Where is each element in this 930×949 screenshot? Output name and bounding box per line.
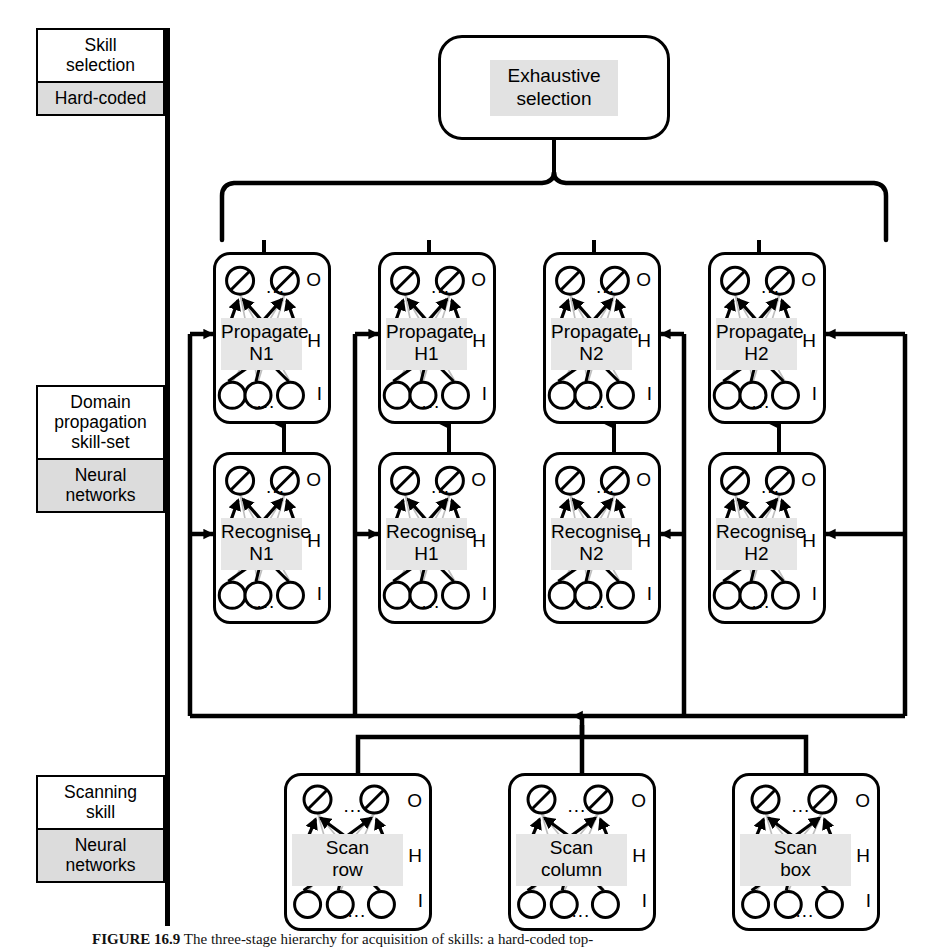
output-ellipsis: ...	[792, 795, 811, 817]
input-ellipsis: ...	[586, 391, 605, 413]
recognise-box-4[interactable]: ......OHIRecogniseH2	[708, 452, 826, 624]
output-ellipsis: ...	[431, 276, 450, 298]
output-ellipsis: ...	[568, 795, 587, 817]
neural-network-glyph: ......OHIScanrow	[287, 776, 429, 928]
layer-letter-hidden: H	[637, 331, 651, 350]
recognise-box-2[interactable]: ......OHIRecogniseH1	[378, 452, 496, 624]
input-ellipsis: ...	[751, 591, 770, 613]
layer-letter-output: O	[636, 470, 651, 489]
figure-caption: FIGURE 16.9 The three-stage hierarchy fo…	[92, 930, 892, 948]
output-ellipsis: ...	[761, 276, 780, 298]
layer-letter-output: O	[855, 791, 870, 810]
input-ellipsis: ...	[347, 900, 366, 922]
neural-network-glyph: ......OHIPropagateH1	[381, 255, 493, 421]
input-ellipsis: ...	[421, 591, 440, 613]
layer-letter-input: I	[642, 891, 647, 910]
figure-caption-text: The three-stage hierarchy for acquisitio…	[184, 931, 593, 947]
input-ellipsis: ...	[586, 591, 605, 613]
exhaustive-selection-box[interactable]: Exhaustiveselection	[438, 35, 670, 140]
layer-letter-hidden: H	[802, 531, 816, 550]
neural-network-glyph: ......OHIRecogniseN1	[216, 455, 328, 621]
layer-letter-output: O	[631, 791, 646, 810]
layer-letter-input: I	[647, 584, 652, 603]
layer-letter-input: I	[866, 891, 871, 910]
layer-letter-hidden: H	[408, 846, 422, 865]
layer-letter-hidden: H	[856, 846, 870, 865]
propagate-box-4[interactable]: ......OHIPropagateH2	[708, 252, 826, 424]
output-ellipsis: ...	[761, 476, 780, 498]
scan-box-3[interactable]: ......OHIScanbox	[732, 773, 880, 931]
neural-network-glyph: ......OHIPropagateN2	[546, 255, 658, 421]
input-ellipsis: ...	[795, 900, 814, 922]
layer-letter-output: O	[471, 270, 486, 289]
layer-letter-output: O	[306, 470, 321, 489]
layer-letter-output: O	[636, 270, 651, 289]
neural-network-glyph: ......OHIRecogniseN2	[546, 455, 658, 621]
layer-letter-hidden: H	[307, 531, 321, 550]
exhaustive-selection-label: Exhaustiveselection	[490, 60, 619, 116]
layer-letter-input: I	[317, 584, 322, 603]
recognise-box-1[interactable]: ......OHIRecogniseN1	[213, 452, 331, 624]
scan-box-1[interactable]: ......OHIScanrow	[284, 773, 432, 931]
layer-letter-hidden: H	[472, 331, 486, 350]
layer-letter-input: I	[418, 891, 423, 910]
layer-letter-output: O	[801, 270, 816, 289]
layer-letter-input: I	[812, 384, 817, 403]
output-ellipsis: ...	[596, 276, 615, 298]
layer-letter-input: I	[812, 584, 817, 603]
layer-letter-hidden: H	[637, 531, 651, 550]
layer-letter-output: O	[801, 470, 816, 489]
layer-letter-output: O	[306, 270, 321, 289]
figure-caption-label: FIGURE 16.9	[92, 931, 180, 947]
layer-letter-hidden: H	[802, 331, 816, 350]
layer-letter-output: O	[471, 470, 486, 489]
neural-network-glyph: ......OHIRecogniseH2	[711, 455, 823, 621]
input-ellipsis: ...	[421, 391, 440, 413]
neural-network-glyph: ......OHIScancolumn	[511, 776, 653, 928]
layer-letter-input: I	[647, 384, 652, 403]
propagate-box-3[interactable]: ......OHIPropagateN2	[543, 252, 661, 424]
input-ellipsis: ...	[751, 391, 770, 413]
input-ellipsis: ...	[571, 900, 590, 922]
layer-letter-hidden: H	[307, 331, 321, 350]
layer-letter-input: I	[317, 384, 322, 403]
output-ellipsis: ...	[266, 276, 285, 298]
layer-letter-hidden: H	[632, 846, 646, 865]
layer-letter-input: I	[482, 584, 487, 603]
neural-network-glyph: ......OHIPropagateN1	[216, 255, 328, 421]
figure-canvas: Skillselection Hard-coded Domainpropagat…	[0, 0, 930, 949]
layer-letter-input: I	[482, 384, 487, 403]
layer-letter-output: O	[407, 791, 422, 810]
input-ellipsis: ...	[256, 591, 275, 613]
propagate-box-1[interactable]: ......OHIPropagateN1	[213, 252, 331, 424]
recognise-box-3[interactable]: ......OHIRecogniseN2	[543, 452, 661, 624]
propagate-box-2[interactable]: ......OHIPropagateH1	[378, 252, 496, 424]
output-ellipsis: ...	[596, 476, 615, 498]
layer-letter-hidden: H	[472, 531, 486, 550]
neural-network-glyph: ......OHIScanbox	[735, 776, 877, 928]
neural-network-glyph: ......OHIRecogniseH1	[381, 455, 493, 621]
output-ellipsis: ...	[266, 476, 285, 498]
input-ellipsis: ...	[256, 391, 275, 413]
output-ellipsis: ...	[344, 795, 363, 817]
neural-network-glyph: ......OHIPropagateH2	[711, 255, 823, 421]
output-ellipsis: ...	[431, 476, 450, 498]
scan-box-2[interactable]: ......OHIScancolumn	[508, 773, 656, 931]
